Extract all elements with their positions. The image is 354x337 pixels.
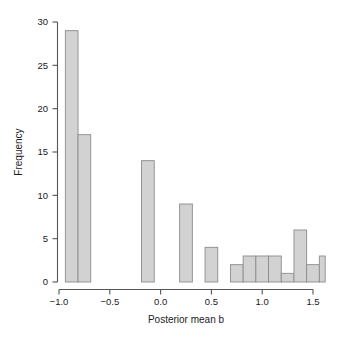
histogram-bar — [269, 256, 282, 282]
y-tick-label: 10 — [37, 190, 48, 201]
y-tick-label: 15 — [37, 146, 48, 157]
y-axis-title: Frequency — [13, 128, 24, 175]
y-tick-label: 5 — [43, 233, 48, 244]
x-tick-label: 0.5 — [205, 296, 218, 307]
y-tick-label: 20 — [37, 103, 48, 114]
histogram-bar — [230, 265, 243, 282]
x-tick-label: 1.0 — [256, 296, 269, 307]
histogram-bar — [65, 31, 78, 282]
x-axis-title: Posterior mean b — [148, 314, 225, 325]
y-tick-label: 30 — [37, 16, 48, 27]
y-tick-label: 25 — [37, 60, 48, 71]
x-tick-label: 1.5 — [306, 296, 319, 307]
histogram-bar — [294, 230, 307, 282]
histogram-bar — [256, 256, 269, 282]
x-tick-label: −1.0 — [50, 296, 69, 307]
chart-background — [0, 0, 354, 337]
x-tick-label: 0.0 — [154, 296, 167, 307]
histogram-chart: 051015202530 −1.0−0.50.00.51.01.5 Freque… — [0, 0, 354, 337]
histogram-bar — [142, 161, 155, 282]
histogram-bar — [205, 247, 218, 282]
chart-canvas: 051015202530 −1.0−0.50.00.51.01.5 Freque… — [0, 0, 354, 337]
histogram-bar — [319, 256, 325, 282]
x-tick-label: −0.5 — [100, 296, 119, 307]
histogram-bar — [243, 256, 256, 282]
histogram-bar — [307, 265, 320, 282]
histogram-bar — [281, 273, 294, 282]
histogram-bar — [180, 204, 193, 282]
histogram-bar — [78, 135, 91, 282]
y-tick-label: 0 — [43, 276, 48, 287]
